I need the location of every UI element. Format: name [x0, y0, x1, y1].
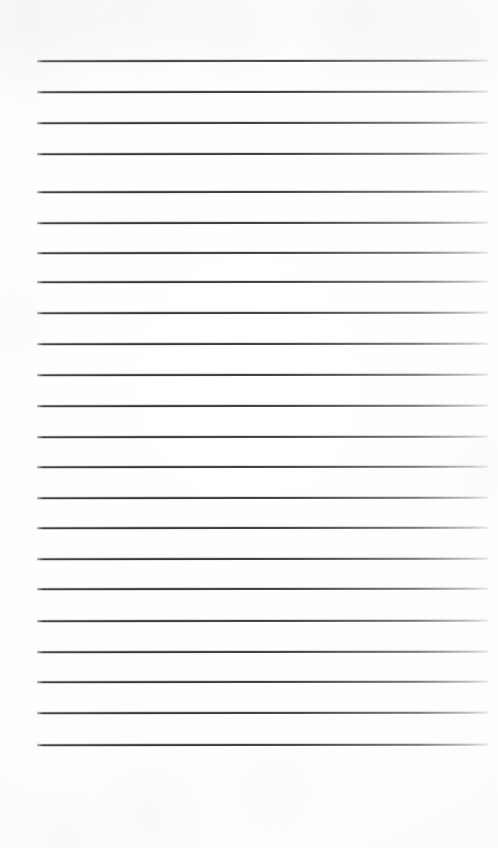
ruled-line	[37, 466, 488, 468]
ruled-line	[37, 436, 488, 439]
ruled-line	[37, 191, 488, 193]
ruled-line	[37, 60, 488, 63]
ruled-line	[37, 651, 488, 653]
ruled-line	[37, 343, 488, 346]
ruled-line	[37, 681, 488, 683]
ruled-lines-container	[0, 0, 498, 848]
ruled-line	[37, 312, 488, 314]
ruled-line	[37, 153, 488, 156]
ruled-line	[37, 588, 488, 590]
ruled-line	[37, 744, 488, 746]
lined-paper-page	[0, 0, 498, 848]
ruled-line	[37, 374, 488, 376]
ruled-line	[37, 252, 488, 255]
ruled-line	[37, 222, 488, 224]
ruled-line	[37, 122, 488, 124]
ruled-line	[37, 405, 488, 407]
ruled-line	[37, 527, 488, 530]
ruled-line	[37, 281, 488, 283]
ruled-line	[37, 558, 488, 560]
ruled-line	[37, 91, 488, 93]
ruled-line	[37, 620, 488, 623]
ruled-line	[37, 497, 488, 499]
ruled-line	[37, 712, 488, 715]
